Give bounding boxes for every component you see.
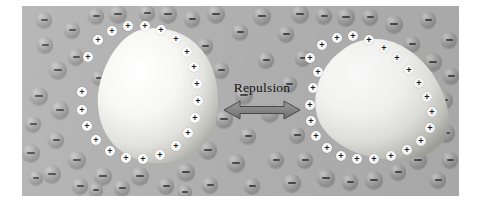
positive-surface-charge: + — [348, 31, 358, 41]
positive-surface-charge: + — [402, 145, 412, 155]
positive-surface-charge: + — [190, 113, 200, 123]
positive-surface-charge: + — [404, 65, 414, 75]
positive-surface-charge: + — [189, 62, 199, 72]
positive-surface-charge: + — [193, 96, 203, 106]
positive-surface-charge: + — [311, 131, 321, 141]
positive-surface-charge: + — [77, 105, 87, 115]
positive-surface-charge: + — [416, 136, 426, 146]
positive-surface-charge: + — [171, 141, 181, 151]
positive-surface-charge: + — [77, 87, 87, 97]
positive-surface-charge: + — [183, 128, 193, 138]
positive-surface-charge: + — [138, 154, 148, 164]
positive-surface-charge: + — [336, 151, 346, 161]
positive-surface-charge: + — [182, 47, 192, 57]
positive-surface-charge: + — [422, 92, 432, 102]
positive-surface-charge: + — [91, 135, 101, 145]
positive-surface-charge: + — [305, 100, 315, 110]
repulsion-label: Repulsion — [225, 80, 299, 96]
positive-surface-charge: + — [386, 151, 396, 161]
colloid-repulsion-figure: ++++++++++++++++++++++ +++++++++++++++++… — [0, 0, 477, 214]
positive-surface-charge: + — [93, 35, 103, 45]
positive-surface-charge: + — [82, 121, 92, 131]
positive-surface-charge: + — [107, 26, 117, 36]
positive-surface-charge: + — [171, 34, 181, 44]
positive-surface-charge: + — [306, 116, 316, 126]
positive-surface-charge: + — [392, 53, 402, 63]
positive-surface-charge: + — [155, 150, 165, 160]
positive-surface-charge: + — [105, 146, 115, 156]
positive-surface-charge: + — [332, 33, 342, 43]
positive-surface-charge: + — [121, 153, 131, 163]
positive-surface-charge: + — [192, 79, 202, 89]
positive-surface-charge: + — [352, 154, 362, 164]
positive-surface-charge: + — [308, 83, 318, 93]
positive-surface-charge: + — [322, 143, 332, 153]
positive-surface-charge: + — [156, 25, 166, 35]
diagram-panel: ++++++++++++++++++++++ +++++++++++++++++… — [22, 6, 459, 196]
positive-surface-charge: + — [425, 123, 435, 133]
positive-surface-charge: + — [123, 21, 133, 31]
positive-surface-charge: + — [414, 78, 424, 88]
positive-surface-charge: + — [427, 107, 437, 117]
positive-surface-charge: + — [313, 67, 323, 77]
double-headed-arrow-icon — [222, 99, 302, 121]
positive-surface-charge: + — [83, 52, 93, 62]
positive-surface-charge: + — [369, 154, 379, 164]
positive-surface-charge: + — [140, 21, 150, 31]
positive-surface-charge: + — [305, 53, 315, 63]
positive-surface-charge: + — [379, 43, 389, 53]
positive-surface-charge: + — [317, 40, 327, 50]
positive-surface-charge: + — [364, 35, 374, 45]
